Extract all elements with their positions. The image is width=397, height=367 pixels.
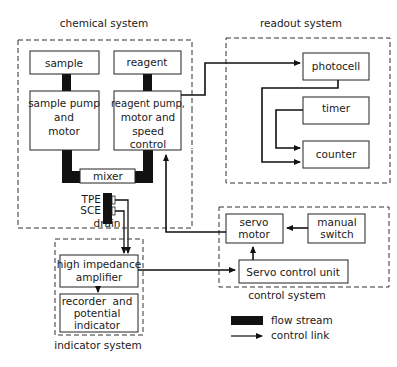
control-system-title: control system [248, 289, 326, 301]
sample-label: sample [45, 57, 83, 69]
sample-pump-label-3: motor [48, 125, 80, 137]
tpe-electrode [112, 196, 115, 204]
indicator-system-title: indicator system [54, 339, 142, 351]
mixer-label: mixer [93, 170, 123, 182]
servo-to-reagent-pump-link [166, 155, 226, 232]
reagent-to-photocell-link [181, 63, 300, 95]
manual-switch-label-1: manual [317, 216, 356, 228]
timer-to-counter-link [276, 110, 303, 148]
flow-reagent-to-pump [143, 74, 152, 92]
drain-label: drain [94, 217, 121, 229]
photocell-label: photocell [312, 60, 360, 72]
sce-electrode [112, 207, 115, 215]
flow-sample-to-pump [62, 74, 71, 92]
servo-motor-label-1: servo [240, 216, 269, 228]
reagent-pump-label-4: control [130, 138, 166, 150]
legend-control-label: control link [271, 329, 330, 341]
amplifier-label-1: high impedance [57, 258, 142, 270]
counter-label: counter [316, 148, 357, 160]
sce-label: SCE [80, 204, 101, 216]
reagent-pump-label-1: reagent pump, [111, 98, 185, 109]
amplifier-label-2: amplifier [76, 271, 123, 283]
servo-control-unit-label: Servo control unit [246, 266, 340, 278]
timer-label: timer [322, 102, 351, 114]
recorder-label-3: indicator [74, 319, 121, 331]
legend-flow-swatch [231, 316, 263, 325]
manual-switch-label-2: switch [320, 228, 354, 240]
legend-flow-label: flow stream [271, 314, 333, 326]
process-diagram: chemical system sample reagent sample pu… [0, 0, 397, 367]
chemical-system-title: chemical system [60, 17, 148, 29]
readout-system-title: readout system [260, 17, 342, 29]
reagent-label: reagent [127, 56, 168, 68]
flow-sample-pump-to-mixer [62, 150, 81, 183]
flow-reagent-pump-to-mixer [134, 150, 153, 183]
sample-pump-label-1: sample pump [28, 97, 100, 109]
sample-pump-label-2: and [54, 111, 74, 123]
recorder-label-1: recorder and [62, 295, 133, 307]
recorder-label-2: potential [74, 307, 121, 319]
reagent-pump-label-2: motor and [121, 111, 176, 123]
servo-motor-label-2: motor [238, 228, 270, 240]
reagent-pump-label-3: speed [132, 125, 164, 137]
